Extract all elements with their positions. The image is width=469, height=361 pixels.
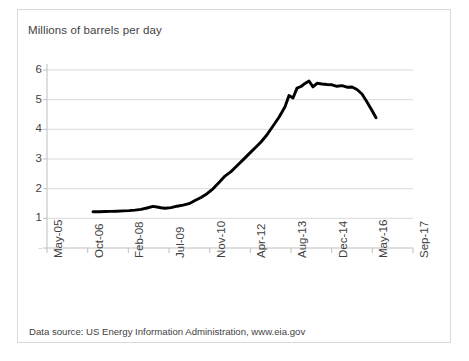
x-axis-label-apr-12: Apr-12	[255, 223, 267, 258]
x-axis-label-may-05: May-05	[52, 220, 64, 258]
y-tick-marks	[43, 70, 47, 248]
y-axis-label-3: 3	[18, 152, 42, 164]
x-axis-label-jul-09: Jul-09	[174, 227, 186, 258]
x-axis-label-sep-17: Sep-17	[418, 221, 430, 258]
x-axis-label-oct-06: Oct-06	[93, 223, 105, 258]
y-axis-label-2: 2	[18, 182, 42, 194]
x-axis-label-aug-13: Aug-13	[296, 221, 308, 258]
y-axis-label-4: 4	[18, 122, 42, 134]
data-source-note: Data source: US Energy Information Admin…	[29, 326, 305, 337]
x-axis-label-dec-14: Dec-14	[337, 221, 349, 258]
y-axis-label-5: 5	[18, 93, 42, 105]
x-axis-label-may-16: May-16	[377, 220, 389, 258]
y-axis-label-1: 1	[18, 211, 42, 223]
y-axis-label-0: -	[18, 241, 42, 253]
x-axis-label-nov-10: Nov-10	[215, 221, 227, 258]
x-axis-label-feb-08: Feb-08	[133, 222, 145, 258]
chart-figure: Millions of barrels per day	[0, 0, 469, 361]
data-series-line	[93, 81, 376, 212]
plot-area	[0, 0, 469, 361]
y-axis-label-6: 6	[18, 63, 42, 75]
